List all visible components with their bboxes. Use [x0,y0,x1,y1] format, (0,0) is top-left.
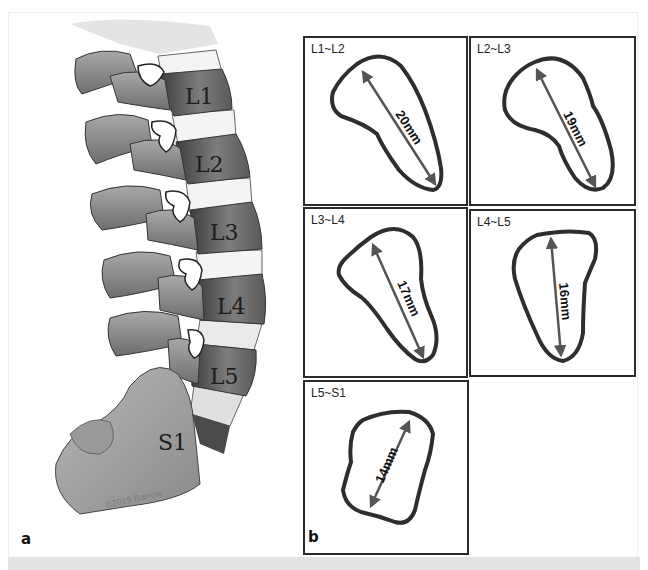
label-l2: L2 [195,152,224,177]
foramen-outline-l5-s1: 14mm [305,382,467,553]
lumbar-spine-drawing: L1 L2 L3 L4 L5 S1 ©2019 Barrow [10,14,300,554]
bottom-strip [8,557,640,570]
label-l1: L1 [185,84,214,109]
level-label-l3-l4: L3~L4 [311,213,345,227]
label-l3: L3 [210,220,239,245]
foramen-box-l3-l4: 17mm L3~L4 [303,207,468,378]
level-label-l4-l5: L4~L5 [477,215,511,229]
foramen-outline-l3-l4: 17mm [305,209,466,376]
panel-b-letter: b [308,528,319,546]
panel-a-letter: a [21,530,31,548]
foramen-outline-l1-l2: 20mm [305,38,466,204]
label-l4: L4 [217,294,246,319]
foramen-box-l5-s1: 14mm L5~S1 [303,380,469,555]
level-label-l1-l2: L1~L2 [311,42,345,56]
foramen-box-l2-l3: 19mm L2~L3 [469,36,636,206]
measurement-l2-l3: 19mm [560,109,590,149]
panel-a-spine-illustration: L1 L2 L3 L4 L5 S1 ©2019 Barrow [10,14,300,554]
label-l5: L5 [210,364,239,389]
level-label-l2-l3: L2~L3 [477,42,511,56]
foramen-box-l1-l2: 20mm L1~L2 [303,36,468,206]
level-label-l5-s1: L5~S1 [311,386,346,400]
foramen-outline-l4-l5: 16mm [471,211,634,375]
measurement-l5-s1: 14mm [372,445,401,485]
label-s1: S1 [158,430,187,455]
measurement-l3-l4: 17mm [394,278,423,318]
foramen-box-l4-l5: 16mm L4~L5 [469,209,636,377]
foramen-outline-l2-l3: 19mm [471,38,634,204]
